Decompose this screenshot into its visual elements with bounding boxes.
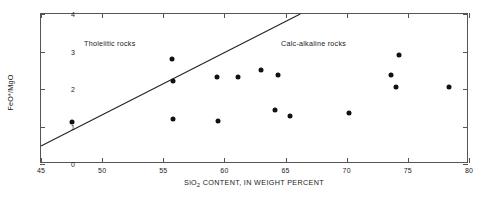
x-tick-label-80: 80 — [465, 167, 473, 174]
x-axis-title: SiO2 CONTENT, IN WEIGHT PERCENT — [184, 178, 324, 187]
data-point — [216, 118, 221, 123]
tholeiitic-label: Tholeiitic rocks — [84, 39, 136, 48]
data-point — [347, 111, 352, 116]
tholeiitic-calc-alkaline-divider — [41, 14, 467, 162]
calc-alkaline-label: Calc-alkaline rocks — [281, 39, 346, 48]
y-axis-title: FeO*/MgO — [6, 63, 15, 123]
data-point — [288, 114, 293, 119]
data-point — [397, 52, 402, 57]
data-point — [447, 85, 452, 90]
y-tick-0 — [40, 164, 45, 165]
data-point — [393, 85, 398, 90]
data-point — [235, 74, 240, 79]
y-tick-right-0 — [463, 164, 468, 165]
scatter-plot-figure: 4550556065707580 01234 Tholeiitic rocks … — [0, 0, 480, 198]
data-point — [259, 67, 264, 72]
data-point — [169, 57, 174, 62]
x-tick-label-55: 55 — [159, 167, 167, 174]
x-tick-label-75: 75 — [404, 167, 412, 174]
x-tick-label-60: 60 — [220, 167, 228, 174]
x-axis-title-subscript: 2 — [197, 182, 200, 188]
x-tick-label-50: 50 — [98, 167, 106, 174]
x-tick-label-65: 65 — [281, 167, 289, 174]
data-point — [171, 117, 176, 122]
x-tick-bottom-80 — [469, 158, 470, 163]
data-point — [272, 107, 277, 112]
x-axis-title-rest: CONTENT, IN WEIGHT PERCENT — [200, 178, 324, 187]
data-point — [276, 73, 281, 78]
data-point — [171, 78, 176, 83]
data-point — [69, 120, 74, 125]
x-axis-title-main: SiO — [184, 178, 197, 187]
x-tick-label-70: 70 — [343, 167, 351, 174]
x-tick-label-45: 45 — [37, 167, 45, 174]
data-point — [215, 74, 220, 79]
x-tick-80 — [469, 13, 470, 18]
plot-area: 4550556065707580 01234 Tholeiitic rocks … — [40, 13, 468, 163]
data-point — [388, 73, 393, 78]
